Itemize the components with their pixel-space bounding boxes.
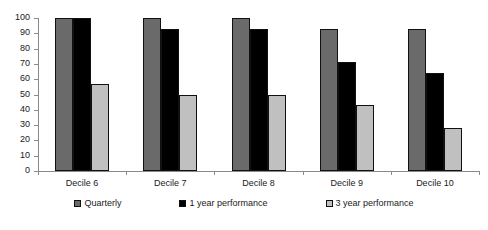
- y-tick-label: 30: [0, 120, 30, 129]
- bar-group: [55, 18, 109, 171]
- x-tick-label: Decile 10: [391, 178, 479, 188]
- x-tick-label: Decile 6: [38, 178, 126, 188]
- x-axis-line: [38, 171, 479, 172]
- chart-legend: Quarterly1 year performance3 year perfor…: [0, 198, 488, 218]
- y-tick-label: 70: [0, 59, 30, 68]
- bar: [338, 62, 356, 171]
- x-tick-mark: [391, 171, 392, 175]
- legend-swatch-icon: [74, 200, 81, 207]
- bars-layer: [38, 18, 479, 171]
- legend-item: Quarterly: [74, 198, 121, 208]
- plot-area: 0102030405060708090100 Decile 6Decile 7D…: [0, 0, 488, 196]
- bar: [408, 29, 426, 171]
- y-tick-label: 10: [0, 151, 30, 160]
- y-tick-label: 40: [0, 105, 30, 114]
- legend-item: 3 year performance: [326, 198, 414, 208]
- bar: [268, 95, 286, 172]
- x-tick-mark: [214, 171, 215, 175]
- legend-item: 1 year performance: [179, 198, 267, 208]
- legend-label: Quarterly: [84, 198, 121, 208]
- y-tick-label: 100: [0, 13, 30, 22]
- bar: [356, 105, 374, 171]
- bar: [250, 29, 268, 171]
- x-tick-mark: [38, 171, 39, 175]
- bar: [161, 29, 179, 171]
- legend-label: 1 year performance: [189, 198, 267, 208]
- x-tick-label: Decile 9: [303, 178, 391, 188]
- legend-swatch-icon: [179, 200, 186, 207]
- x-tick-mark: [479, 171, 480, 175]
- y-tick-label: 60: [0, 74, 30, 83]
- legend-swatch-icon: [326, 200, 333, 207]
- bar: [73, 18, 91, 171]
- x-tick-label: Decile 8: [214, 178, 302, 188]
- bar: [179, 95, 197, 172]
- y-tick-label: 20: [0, 135, 30, 144]
- x-tick-mark: [126, 171, 127, 175]
- bar-chart: 0102030405060708090100 Decile 6Decile 7D…: [0, 0, 488, 230]
- bar: [426, 73, 444, 171]
- x-tick-mark: [303, 171, 304, 175]
- y-tick-label: 80: [0, 44, 30, 53]
- bar: [320, 29, 338, 171]
- bar: [91, 84, 109, 171]
- bar-group: [408, 18, 462, 171]
- bar-group: [143, 18, 197, 171]
- bar-group: [232, 18, 286, 171]
- x-tick-label: Decile 7: [126, 178, 214, 188]
- bar: [55, 18, 73, 171]
- y-tick-label: 90: [0, 28, 30, 37]
- y-tick-label: 50: [0, 90, 30, 99]
- bar: [143, 18, 161, 171]
- legend-label: 3 year performance: [336, 198, 414, 208]
- bar: [232, 18, 250, 171]
- y-tick-label: 0: [0, 166, 30, 175]
- bar-group: [320, 18, 374, 171]
- bar: [444, 128, 462, 171]
